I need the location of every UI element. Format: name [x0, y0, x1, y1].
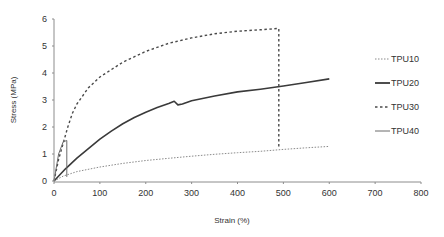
stress-strain-chart: 0123456 0100200300400500600700800 Stress… — [0, 0, 444, 237]
legend-item-tpu20: TPU20 — [375, 78, 419, 88]
x-axis-title: Strain (%) — [214, 216, 250, 225]
x-tick-label: 400 — [230, 188, 245, 198]
plot-series — [54, 28, 329, 181]
y-tick-label: 0 — [42, 176, 47, 186]
x-tick-label: 500 — [276, 188, 291, 198]
legend: TPU10 TPU20 TPU30 TPU40 — [375, 54, 419, 136]
x-tick-label: 700 — [368, 188, 383, 198]
x-axis-ticks: 0100200300400500600700800 — [51, 182, 428, 198]
y-tick-label: 4 — [42, 68, 47, 78]
x-tick-label: 0 — [51, 188, 56, 198]
y-tick-label: 1 — [42, 149, 47, 159]
legend-label: TPU40 — [391, 126, 419, 136]
x-tick-label: 300 — [184, 188, 199, 198]
y-tick-label: 6 — [42, 14, 47, 24]
x-tick-label: 600 — [322, 188, 337, 198]
legend-item-tpu10: TPU10 — [375, 54, 419, 64]
legend-item-tpu40: TPU40 — [375, 126, 419, 136]
y-tick-label: 5 — [42, 41, 47, 51]
x-tick-label: 200 — [138, 188, 153, 198]
y-axis-ticks: 0123456 — [42, 14, 54, 186]
legend-label: TPU10 — [391, 54, 419, 64]
y-axis-title: Stress (MPa) — [9, 76, 18, 123]
series-line-tpu10 — [54, 146, 329, 181]
legend-label: TPU30 — [391, 102, 419, 112]
y-tick-label: 3 — [42, 95, 47, 105]
x-tick-label: 100 — [92, 188, 107, 198]
legend-item-tpu30: TPU30 — [375, 102, 419, 112]
series-line-tpu20 — [54, 79, 329, 181]
y-tick-label: 2 — [42, 122, 47, 132]
legend-label: TPU20 — [391, 78, 419, 88]
x-tick-label: 800 — [413, 188, 428, 198]
